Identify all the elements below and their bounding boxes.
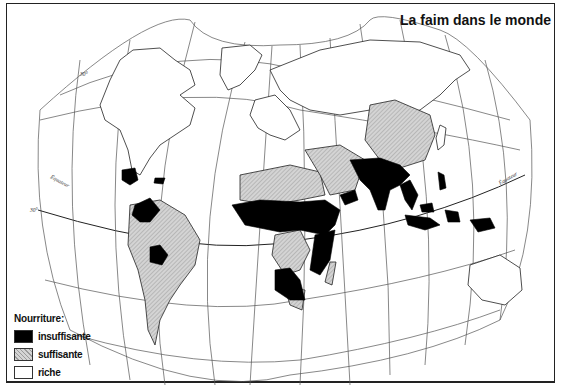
swatch-sufficient — [14, 348, 33, 361]
equator-label-west: Équateur — [49, 172, 72, 189]
equator-label-east: Équateur — [496, 169, 519, 186]
legend-label: riche — [38, 367, 60, 378]
legend-item-sufficient: suffisante — [14, 345, 91, 363]
legend-label: insuffisante — [38, 331, 91, 342]
map-title: La faim dans le monde — [400, 12, 551, 28]
legend-label: suffisante — [38, 349, 82, 360]
legend: Nourriture: insuffisante suffisante rich… — [14, 313, 91, 381]
lat-label-north: 30° — [79, 71, 89, 77]
legend-item-rich: riche — [14, 363, 91, 381]
swatch-insufficient — [14, 330, 33, 343]
legend-item-insufficient: insuffisante — [14, 327, 91, 345]
lat-label-south: 30° — [29, 207, 39, 213]
swatch-rich — [14, 366, 33, 379]
legend-title: Nourriture: — [14, 313, 91, 324]
